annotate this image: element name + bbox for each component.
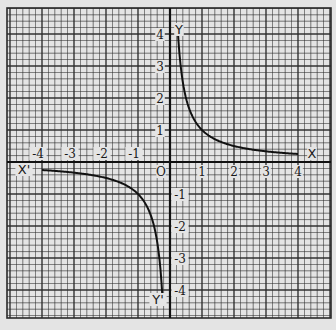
axes [7,8,331,318]
hyperbola-chart: -4-3-2-112344321-1-2-3-4OXX'YY' [0,0,336,330]
y-tick-label: -4 [174,284,186,298]
origin-label: O [156,165,166,179]
x-tick-label: -4 [32,147,44,161]
x-tick-label: -2 [96,147,108,161]
x-tick-label: 3 [262,165,270,179]
y-tick-label: 1 [156,124,164,138]
y-tick-label: 2 [156,92,164,106]
y-axis-negative-label: Y' [151,292,164,307]
x-tick-label: 2 [230,165,238,179]
y-tick-label: 4 [156,28,164,42]
x-tick-label: 4 [294,165,302,179]
x-axis-negative-label: X' [18,162,30,177]
y-tick-label: -1 [174,188,186,202]
x-tick-label: -1 [128,147,140,161]
x-axis-label: X [308,146,317,161]
y-tick-label: -3 [174,252,186,266]
y-axis-label: Y [174,22,183,37]
x-tick-label: -3 [64,147,76,161]
x-tick-label: 1 [198,165,206,179]
y-tick-label: -2 [174,220,186,234]
y-tick-label: 3 [156,60,164,74]
